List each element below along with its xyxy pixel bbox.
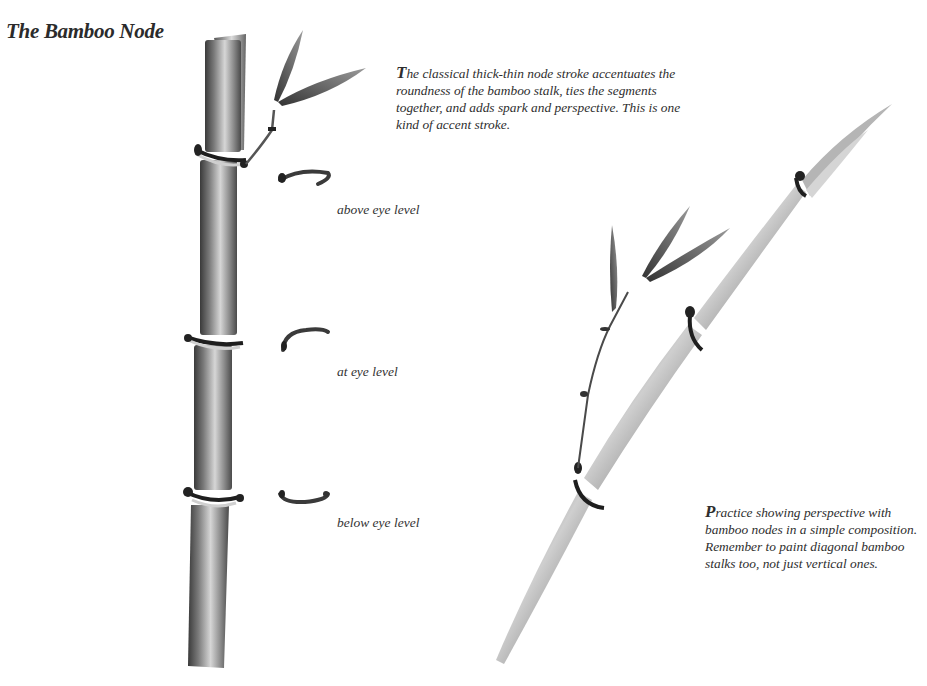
diagonal-stalk: [496, 104, 892, 664]
node-stroke-at: [281, 329, 328, 351]
bamboo-illustration: [0, 0, 927, 686]
node-2: [184, 334, 243, 349]
leaf-icon: [278, 68, 366, 106]
leaf-icon: [610, 225, 617, 312]
node-stroke-above: [278, 172, 329, 184]
vertical-stalk: [183, 30, 366, 668]
node-stroke-below: [279, 490, 329, 502]
